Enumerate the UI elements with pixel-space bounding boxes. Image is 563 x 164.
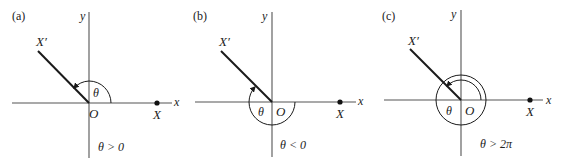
point-label: X [335, 106, 345, 121]
condition-label: θ > 2π [480, 137, 513, 151]
ray-label: X′ [218, 34, 230, 49]
x-axis-label: x [357, 94, 364, 108]
terminal-ray [38, 51, 89, 103]
ray-label: X′ [35, 34, 47, 49]
angle-label: θ [93, 86, 99, 100]
y-axis-label: y [450, 7, 457, 21]
panel-label: (b) [193, 9, 207, 23]
origin-label: O [89, 106, 99, 121]
x-axis-label: x [545, 93, 552, 107]
angle-label: θ [446, 104, 452, 118]
condition-label: θ > 0 [98, 140, 124, 154]
panel-b: (b) y x X′ θ O X θ < 0 [193, 9, 364, 157]
condition-label: θ < 0 [280, 138, 306, 152]
point-x-marker [154, 100, 159, 105]
panel-c: (c) y x X′ θ O X θ > 2π [382, 7, 552, 156]
point-x-marker [337, 99, 342, 104]
panel-label: (a) [12, 9, 25, 23]
ray-label: X′ [407, 33, 419, 48]
angle-diagram: (a) y x X′ θ O X θ > 0 (b) y x X′ θ O X … [0, 0, 563, 164]
point-label: X [152, 107, 162, 122]
y-axis-label: y [79, 9, 86, 23]
origin-label: O [465, 103, 475, 118]
point-label: X [525, 104, 535, 119]
panel-label: (c) [382, 9, 395, 23]
y-axis-label: y [261, 9, 268, 23]
point-x-marker [527, 97, 532, 102]
angle-label: θ [258, 105, 264, 119]
panel-a: (a) y x X′ θ O X θ > 0 [12, 9, 180, 158]
x-axis-label: x [173, 95, 180, 109]
origin-label: O [276, 104, 286, 119]
terminal-ray [221, 51, 272, 102]
terminal-ray [410, 49, 461, 100]
